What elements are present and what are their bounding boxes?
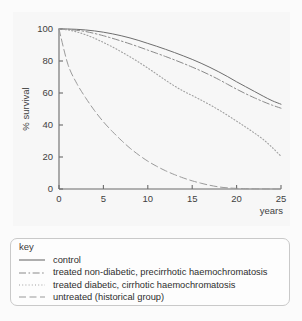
y-axis-tick-label: 20 xyxy=(42,151,53,162)
y-axis-tick-label: 60 xyxy=(42,87,53,98)
series-line-1 xyxy=(59,29,281,108)
y-axis-tick-label: 40 xyxy=(42,119,53,130)
legend-item: treated non-diabetic, precirrhotic haemo… xyxy=(19,266,287,278)
y-axis-tick-label: 80 xyxy=(42,55,53,66)
legend-item-label: control xyxy=(53,254,81,266)
axes-layer xyxy=(59,29,281,189)
series-line-2 xyxy=(59,29,281,156)
legend-line-sample-dash-dot-icon xyxy=(19,268,45,278)
series-layer xyxy=(59,29,281,189)
x-axis-tick-label: 20 xyxy=(231,193,242,204)
legend-line-sample-solid-icon xyxy=(19,255,45,265)
legend-item: treated diabetic, cirrhotic haemochromat… xyxy=(19,279,287,291)
legend-title: key xyxy=(19,241,34,252)
series-line-0 xyxy=(59,29,281,104)
legend-line-sample-dotted-icon xyxy=(19,280,45,290)
legend-line-sample-long-dash-icon xyxy=(19,292,45,302)
x-axis-tick-label: 5 xyxy=(101,193,106,204)
legend-item: untreated (historical group) xyxy=(19,291,287,303)
legend-box: key controltreated non-diabetic, precirr… xyxy=(10,238,290,306)
x-axis-tick-label: 0 xyxy=(56,193,61,204)
x-axis-tick-label: 15 xyxy=(187,193,198,204)
legend-items: controltreated non-diabetic, precirrhoti… xyxy=(19,254,287,304)
legend-item-label: treated non-diabetic, precirrhotic haemo… xyxy=(53,266,267,278)
legend-item: control xyxy=(19,254,287,266)
figure-root: 0204060801000510152025years% survival ke… xyxy=(0,0,302,321)
x-axis-tick-label: 25 xyxy=(276,193,287,204)
y-axis-tick-label: 0 xyxy=(48,183,53,194)
x-axis-title: years xyxy=(260,205,283,216)
y-axis-title: % survival xyxy=(20,87,31,130)
plot-area: 0204060801000510152025years% survival xyxy=(13,12,290,226)
x-axis-tick-label: 10 xyxy=(143,193,154,204)
chart-panel: 0204060801000510152025years% survival xyxy=(13,12,290,226)
legend-item-label: treated diabetic, cirrhotic haemochromat… xyxy=(53,279,235,291)
series-line-3 xyxy=(59,29,281,189)
survival-curve-chart: 0204060801000510152025years% survival xyxy=(13,12,290,226)
legend-item-label: untreated (historical group) xyxy=(53,291,164,303)
y-axis-tick-label: 100 xyxy=(37,23,53,34)
